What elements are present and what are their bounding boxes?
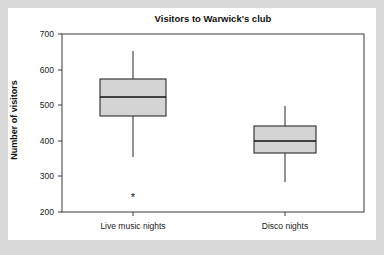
x-category-label-2: Disco nights bbox=[262, 221, 308, 231]
y-tick-label-600: 600 bbox=[40, 65, 54, 75]
y-axis-ticks: 700 600 500 400 300 200 bbox=[40, 29, 62, 217]
outlier-marker-1: * bbox=[131, 191, 136, 203]
box-disco-nights[interactable] bbox=[254, 106, 316, 182]
x-category-label-1: Live music nights bbox=[100, 221, 165, 231]
y-tick-label-700: 700 bbox=[40, 29, 54, 39]
y-tick-label-300: 300 bbox=[40, 171, 54, 181]
y-tick-label-500: 500 bbox=[40, 100, 54, 110]
chart-title: Visitors to Warwick's club bbox=[155, 13, 272, 24]
screenshot-canvas: Visitors to Warwick's club Number of vis… bbox=[0, 0, 384, 255]
y-tick-label-400: 400 bbox=[40, 136, 54, 146]
y-axis-title: Number of visitors bbox=[9, 80, 19, 160]
y-tick-label-200: 200 bbox=[40, 207, 54, 217]
box-body-2[interactable] bbox=[254, 126, 316, 153]
plot-frame bbox=[62, 34, 364, 212]
box-plot-chart: Visitors to Warwick's club Number of vis… bbox=[0, 0, 384, 255]
box-live-music-nights[interactable]: * bbox=[100, 51, 166, 203]
x-axis-ticks bbox=[133, 212, 285, 216]
